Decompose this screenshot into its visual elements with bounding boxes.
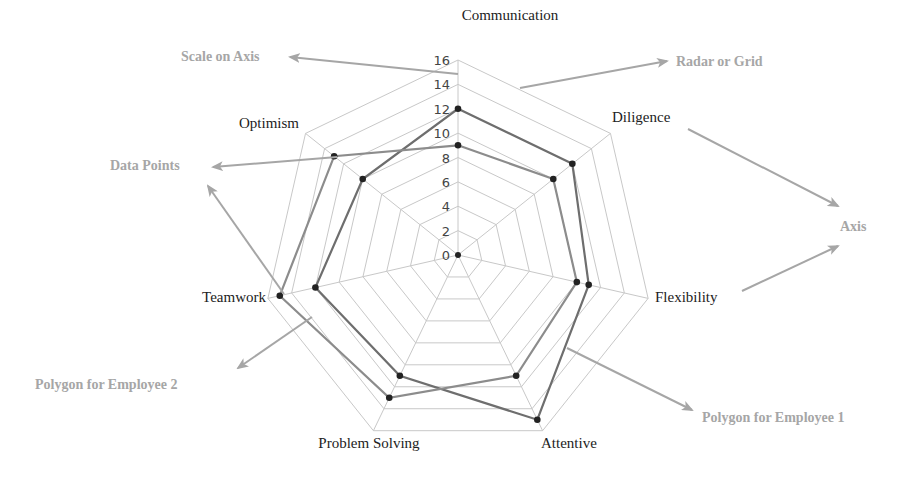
annotation-axis: Axis <box>840 219 867 234</box>
scale-tick-label: 10 <box>433 126 450 141</box>
axis-label-attentive: Attentive <box>541 435 597 451</box>
data-points-arrow-2 <box>208 186 284 294</box>
scale-tick-label: 16 <box>433 53 450 68</box>
employee-1-polygon-arrow <box>567 348 692 410</box>
axis-spoke <box>458 255 648 298</box>
annotations: Scale on Axis Radar or Grid Data Points … <box>35 49 867 425</box>
employee-1-polygon <box>315 109 588 420</box>
data-point <box>455 142 462 149</box>
axis-label-problem-solving: Problem Solving <box>318 435 420 451</box>
data-points-arrow-1 <box>213 157 337 167</box>
scale-tick-label: 0 <box>442 248 450 263</box>
axis-label-flexibility: Flexibility <box>655 289 718 305</box>
axis-spoke <box>268 255 458 298</box>
data-point <box>513 372 520 379</box>
axis-arrow-1 <box>688 129 838 206</box>
data-point <box>569 161 576 168</box>
scale-tick-label: 4 <box>442 199 450 214</box>
annotation-radar-or-grid: Radar or Grid <box>676 54 763 69</box>
data-point <box>585 282 592 289</box>
axis-spoke <box>458 133 610 255</box>
annotation-polygon-employee-2: Polygon for Employee 2 <box>35 377 177 392</box>
radar-or-grid-arrow <box>520 61 667 88</box>
data-point <box>397 372 404 379</box>
annotation-data-points: Data Points <box>110 158 180 173</box>
annotation-scale-on-axis: Scale on Axis <box>181 49 260 64</box>
data-point <box>574 279 581 286</box>
scale-tick-label: 12 <box>433 102 450 117</box>
axis-arrow-2 <box>742 246 838 291</box>
employee-2-polygon-arrow <box>238 317 312 368</box>
scale-tick-label: 6 <box>442 175 450 190</box>
axis-label-optimism: Optimism <box>239 115 299 131</box>
data-point <box>386 394 393 401</box>
data-point <box>550 176 557 183</box>
data-point <box>276 292 283 299</box>
data-point <box>455 105 462 112</box>
annotation-polygon-employee-1: Polygon for Employee 1 <box>702 410 844 425</box>
scale-ticks: 0246810121416 <box>433 53 450 263</box>
center-point <box>455 252 461 258</box>
scale-tick-label: 2 <box>442 224 450 239</box>
axis-label-teamwork: Teamwork <box>202 289 266 305</box>
axis-label-communication: Communication <box>462 7 559 23</box>
radar-chart-diagram: 0246810121416 CommunicationDiligenceFlex… <box>0 0 924 483</box>
data-point <box>359 176 366 183</box>
data-point <box>312 284 319 291</box>
data-point <box>534 416 541 423</box>
scale-tick-label: 8 <box>442 151 450 166</box>
scale-tick-label: 14 <box>433 77 450 92</box>
axis-label-diligence: Diligence <box>612 109 671 125</box>
